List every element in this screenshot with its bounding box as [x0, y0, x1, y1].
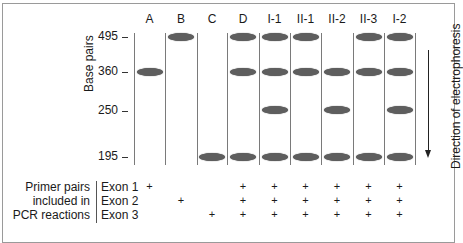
- gel-band-495bp: [230, 33, 256, 41]
- primer-included-mark: +: [353, 208, 384, 220]
- exon-label: Exon 1: [101, 180, 138, 194]
- primer-included-mark: +: [384, 180, 415, 192]
- gel-band-495bp: [387, 33, 413, 41]
- gel-band-495bp: [262, 33, 288, 41]
- lane-divider: [134, 33, 135, 165]
- primer-included-mark: +: [290, 208, 321, 220]
- primer-included-mark: +: [322, 194, 353, 206]
- lane-divider: [197, 33, 198, 165]
- primer-included-mark: +: [166, 194, 197, 206]
- gel-band-195bp: [356, 153, 382, 161]
- primer-row-header: Primer pairs: [0, 180, 90, 194]
- lane-label: II-2: [322, 12, 353, 26]
- primer-included-mark: +: [259, 194, 290, 206]
- size-marker-tick: [122, 157, 128, 158]
- gel-band-360bp: [293, 68, 319, 76]
- lane-divider: [321, 33, 322, 165]
- lane-divider: [290, 33, 291, 165]
- gel-band-495bp: [356, 33, 382, 41]
- lane-label: I-1: [259, 12, 290, 26]
- size-marker-tick: [122, 72, 128, 73]
- primer-row-header: included in: [0, 194, 90, 208]
- lane-label: D: [228, 12, 259, 26]
- primer-included-mark: +: [259, 208, 290, 220]
- primer-included-mark: +: [322, 208, 353, 220]
- gel-band-360bp: [230, 68, 256, 76]
- size-marker-tick: [122, 111, 128, 112]
- primer-included-mark: +: [322, 180, 353, 192]
- lane-divider: [165, 33, 166, 165]
- gel-band-195bp: [387, 153, 413, 161]
- direction-label: Direction of electrophoresis: [449, 24, 463, 169]
- gel-band-360bp: [262, 68, 288, 76]
- primer-included-mark: +: [259, 180, 290, 192]
- primer-included-mark: +: [197, 208, 228, 220]
- primer-row-header: PCR reactions: [0, 208, 90, 222]
- lane-label: II-1: [290, 12, 321, 26]
- primer-included-mark: +: [134, 180, 165, 192]
- gel-band-195bp: [262, 153, 288, 161]
- gel-band-360bp: [324, 68, 350, 76]
- primer-included-mark: +: [290, 180, 321, 192]
- primer-included-mark: +: [228, 194, 259, 206]
- size-marker-label: 495: [80, 29, 118, 43]
- exon-label: Exon 2: [101, 194, 138, 208]
- gel-band-195bp: [293, 153, 319, 161]
- gel-band-360bp: [387, 68, 413, 76]
- primer-included-mark: +: [228, 208, 259, 220]
- gel-band-360bp: [137, 68, 163, 76]
- size-marker-label: 195: [80, 149, 118, 163]
- lane-label: II-3: [353, 12, 384, 26]
- gel-band-195bp: [199, 153, 225, 161]
- size-marker-tick: [122, 37, 128, 38]
- gel-band-250bp: [262, 106, 288, 114]
- gel-band-495bp: [293, 33, 319, 41]
- primer-included-mark: +: [228, 180, 259, 192]
- lane-label: B: [166, 12, 197, 26]
- gel-band-195bp: [230, 153, 256, 161]
- primer-included-mark: +: [353, 194, 384, 206]
- lane-divider: [384, 33, 385, 165]
- direction-arrow-head-icon: [425, 150, 431, 158]
- lane-divider: [353, 33, 354, 165]
- lane-label: C: [197, 12, 228, 26]
- primer-included-mark: +: [384, 194, 415, 206]
- size-marker-label: 250: [80, 103, 118, 117]
- gel-band-360bp: [356, 68, 382, 76]
- exon-label: Exon 3: [101, 208, 138, 222]
- lane-label: I-2: [384, 12, 415, 26]
- gel-band-250bp: [387, 106, 413, 114]
- size-marker-label: 360: [80, 64, 118, 78]
- primer-included-mark: +: [353, 180, 384, 192]
- lane-divider: [227, 33, 228, 165]
- lane-label: A: [134, 12, 165, 26]
- gel-band-495bp: [168, 33, 194, 41]
- primer-included-mark: +: [290, 194, 321, 206]
- primer-table-divider: [96, 181, 97, 223]
- lane-divider: [259, 33, 260, 165]
- lane-divider: [415, 33, 416, 165]
- gel-band-195bp: [324, 153, 350, 161]
- primer-included-mark: +: [384, 208, 415, 220]
- direction-arrow-shaft: [428, 50, 429, 153]
- gel-band-250bp: [324, 106, 350, 114]
